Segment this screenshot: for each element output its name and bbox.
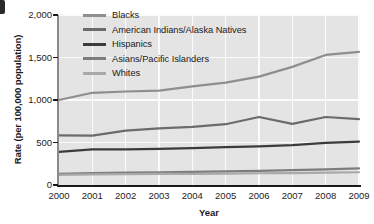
y-axis-tick-mark — [53, 57, 58, 59]
legend-color-swatch — [83, 72, 106, 75]
legend-label: Hispanics — [112, 39, 152, 49]
chart-legend: BlacksAmerican Indians/Alaska NativesHis… — [83, 8, 323, 81]
y-axis-tick-mark — [53, 142, 58, 144]
y-axis-tick-mark — [53, 99, 58, 101]
legend-item: Hispanics — [83, 37, 323, 52]
legend-label: Asians/Pacific Islanders — [112, 54, 209, 64]
legend-item: Asians/Pacific Islanders — [83, 52, 323, 67]
y-axis-tick-label: 0 — [2, 179, 52, 190]
legend-color-swatch — [83, 14, 106, 17]
x-axis-tick-label: 2009 — [339, 190, 374, 201]
y-axis-tick-label: 500 — [2, 137, 52, 148]
legend-color-swatch — [83, 43, 106, 46]
y-axis-tick-label: 2,000 — [2, 9, 52, 20]
legend-item: American Indians/Alaska Natives — [83, 23, 323, 38]
legend-color-swatch — [83, 28, 106, 31]
legend-label: American Indians/Alaska Natives — [112, 25, 246, 35]
y-axis-tick-label: 1,000 — [2, 94, 52, 105]
y-axis-line — [57, 15, 59, 187]
series-line — [59, 117, 359, 136]
y-axis-tick-mark — [53, 184, 58, 186]
legend-label: Whites — [112, 68, 140, 78]
legend-item: Blacks — [83, 8, 323, 23]
y-axis-tick-mark — [53, 14, 58, 16]
legend-label: Blacks — [112, 10, 139, 20]
x-axis-title: Year — [55, 207, 363, 218]
legend-color-swatch — [83, 57, 106, 60]
legend-item: Whites — [83, 66, 323, 81]
x-axis-line — [57, 185, 361, 187]
y-axis-tick-label: 1,500 — [2, 52, 52, 63]
series-line — [59, 142, 359, 152]
